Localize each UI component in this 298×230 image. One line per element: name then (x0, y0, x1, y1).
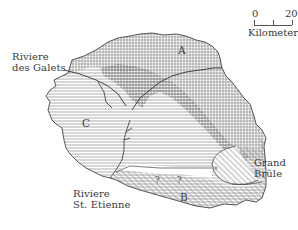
uncertain-marker-2: ? (177, 175, 182, 185)
scale-unit: Kilometers (248, 27, 298, 38)
zone-label-a: A (178, 44, 186, 56)
scale-tick (254, 20, 255, 25)
scale-tick (292, 20, 293, 25)
scale-tick (273, 20, 274, 25)
zone-label-c: C (82, 117, 90, 129)
uncertain-marker-1: ? (155, 175, 160, 185)
label-riviere-des-galets: Riviere des Galets (12, 51, 66, 73)
zone-label-b: B (180, 191, 188, 203)
scale-end: 20 (285, 8, 298, 19)
scale-bar: 0 20 Kilometers (252, 8, 298, 48)
scale-start: 0 (252, 8, 258, 19)
label-grand-brule: Grand Brûle (254, 157, 286, 179)
label-riviere-st-etienne: Riviere St. Etienne (73, 188, 131, 210)
